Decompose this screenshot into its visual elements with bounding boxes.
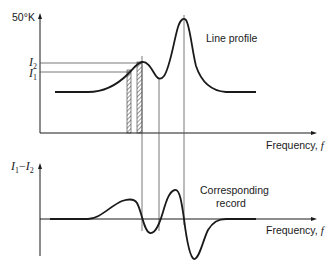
- corresponding-record-line1: Corresponding: [200, 185, 262, 196]
- line-profile-label: Line profile: [206, 33, 257, 44]
- y-label-b-sub: 2: [30, 166, 34, 175]
- top-x-axis-label-text: Frequency,: [266, 139, 321, 151]
- sample-window-2: [137, 62, 142, 133]
- sample-window-1: [127, 70, 131, 133]
- bottom-x-axis-arrow-icon: [311, 217, 317, 221]
- bottom-y-axis-arrow-icon: [38, 163, 42, 169]
- y-label-op: −: [19, 159, 26, 173]
- top-x-axis-label: Frequency, f: [266, 140, 324, 151]
- bottom-x-axis-label-text: Frequency,: [266, 224, 321, 236]
- top-y-axis-label: 50°K: [12, 12, 35, 23]
- line-profile-curve: [55, 19, 256, 92]
- top-y-axis-arrow-icon: [38, 13, 42, 19]
- bottom-plot: [38, 163, 317, 259]
- top-x-axis-symbol: f: [321, 139, 324, 151]
- bottom-x-axis-symbol: f: [321, 224, 324, 236]
- i1-label-sub: 1: [33, 73, 37, 82]
- bottom-x-axis-label: Frequency, f: [266, 225, 324, 236]
- bottom-y-axis-label: I1−I2: [11, 160, 34, 175]
- i1-label: I1: [29, 67, 37, 82]
- corresponding-record-label: Corresponding record: [200, 185, 262, 208]
- corresponding-record-line2: record: [200, 198, 262, 209]
- top-x-axis-arrow-icon: [311, 131, 317, 135]
- top-plot: [38, 13, 317, 231]
